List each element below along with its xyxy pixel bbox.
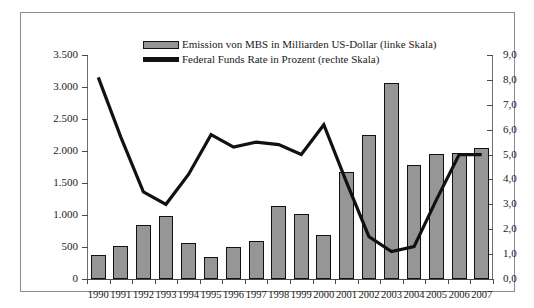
x-tick-label: 1995: [200, 289, 223, 300]
x-tick-label: 1990: [87, 289, 110, 300]
x-tick-label: 1998: [267, 289, 290, 300]
left-tick-label: 1.500: [53, 177, 78, 188]
x-tick-label: 2000: [313, 289, 336, 300]
right-tick-label: 3,0: [503, 198, 517, 209]
x-tick-label: 2004: [403, 289, 426, 300]
right-tick-label: 0,0: [503, 273, 517, 284]
federal-funds-rate-line: [98, 77, 481, 251]
right-tick-label: 4,0: [503, 173, 517, 184]
left-tick-label: 2.500: [53, 113, 78, 124]
x-tick-label: 2006: [448, 289, 471, 300]
right-tick-label: 5,0: [503, 149, 517, 160]
x-tick-label: 2007: [470, 289, 493, 300]
x-tick-mark: [493, 279, 494, 284]
plot-area: 05001.0001.5002.0002.5003.0003.500 0,01,…: [87, 55, 493, 280]
x-tick-label: 1992: [132, 289, 155, 300]
chart-frame: Emission von MBS in Milliarden US-Dollar…: [20, 12, 515, 292]
right-tick-label: 7,0: [503, 99, 517, 110]
left-tick-label: 3.000: [53, 81, 78, 92]
x-tick-label: 2003: [380, 289, 403, 300]
left-tick-label: 1.000: [53, 209, 78, 220]
x-tick-label: 1997: [245, 289, 268, 300]
x-tick-label: 1999: [290, 289, 313, 300]
left-tick-label: 0: [73, 273, 79, 284]
legend-label-bar: Emission von MBS in Milliarden US-Dollar…: [182, 37, 437, 52]
right-tick-label: 1,0: [503, 248, 517, 259]
x-tick-label: 2001: [335, 289, 358, 300]
x-tick-label: 1996: [222, 289, 245, 300]
left-tick-label: 2.000: [53, 145, 78, 156]
left-tick-label: 3.500: [53, 49, 78, 60]
x-tick-label: 1994: [177, 289, 200, 300]
x-tick-label: 2005: [425, 289, 448, 300]
bar-swatch-icon: [143, 41, 179, 49]
line-series: [87, 55, 493, 280]
x-tick-label: 1993: [155, 289, 178, 300]
right-tick-label: 8,0: [503, 74, 517, 85]
right-tick-label: 9,0: [503, 49, 517, 60]
right-tick-label: 2,0: [503, 223, 517, 234]
chart-figure: Emission von MBS in Milliarden US-Dollar…: [0, 0, 534, 308]
x-tick-label: 1991: [110, 289, 133, 300]
legend-item-bar: Emission von MBS in Milliarden US-Dollar…: [143, 37, 437, 52]
x-tick-label: 2002: [358, 289, 381, 300]
right-tick-label: 6,0: [503, 124, 517, 135]
left-tick-label: 500: [62, 241, 79, 252]
